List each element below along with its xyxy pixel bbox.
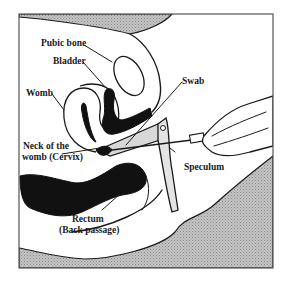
label-speculum: Speculum [184, 162, 224, 172]
label-rectum-line1: Rectum [72, 214, 104, 224]
label-cervix-line2: womb (Cervix) [22, 152, 83, 163]
speculum-hinge [161, 126, 166, 131]
smear-test-diagram: Pubic bone Bladder Womb Swab Neck of the… [0, 0, 289, 285]
hand [202, 96, 273, 156]
upper-body-shading [19, 14, 172, 34]
label-swab: Swab [182, 76, 204, 86]
label-pubic-bone: Pubic bone [41, 38, 86, 48]
label-bladder: Bladder [53, 56, 87, 66]
label-womb: Womb [26, 88, 53, 98]
bladder [102, 89, 152, 135]
label-cervix-line1: Neck of the [23, 141, 69, 151]
rectum [20, 163, 146, 216]
speculum-handle [158, 118, 178, 212]
label-rectum-line2: (Back passage) [59, 225, 119, 236]
